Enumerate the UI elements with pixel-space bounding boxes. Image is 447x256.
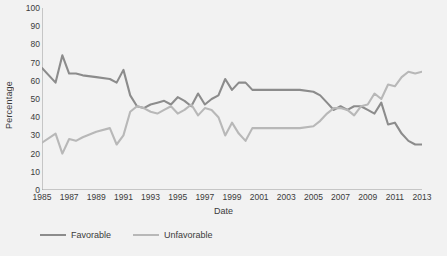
x-tick-label: 2011 — [380, 193, 410, 202]
chart-legend: FavorableUnfavorable — [40, 230, 213, 240]
y-tick-label: 50 — [14, 95, 40, 104]
x-tick-label: 1993 — [136, 193, 166, 202]
line-chart: Percentage 0102030405060708090100 198519… — [0, 0, 447, 256]
x-tick-label: 1999 — [217, 193, 247, 202]
legend-label: Favorable — [71, 230, 111, 240]
y-tick-label: 100 — [14, 4, 40, 13]
x-axis-title: Date — [0, 206, 447, 216]
x-tick-label: 2001 — [244, 193, 274, 202]
legend-swatch-icon — [133, 234, 159, 237]
legend-item-favorable[interactable]: Favorable — [40, 230, 111, 240]
x-tick-label: 2007 — [326, 193, 356, 202]
y-tick-label: 30 — [14, 131, 40, 140]
x-tick-label: 2005 — [298, 193, 328, 202]
axis-lines — [42, 8, 422, 190]
x-tick-label: 1997 — [190, 193, 220, 202]
y-tick-label: 60 — [14, 77, 40, 86]
x-tick-label: 2013 — [407, 193, 437, 202]
x-tick-label: 1991 — [108, 193, 138, 202]
x-tick-label: 1987 — [54, 193, 84, 202]
y-axis-tick-labels: 0102030405060708090100 — [12, 0, 40, 200]
legend-swatch-icon — [40, 234, 66, 237]
y-tick-label: 40 — [14, 113, 40, 122]
plot-area — [42, 8, 422, 190]
y-tick-label: 10 — [14, 168, 40, 177]
y-tick-label: 20 — [14, 150, 40, 159]
x-tick-label: 2003 — [271, 193, 301, 202]
x-tick-label: 1989 — [81, 193, 111, 202]
legend-item-unfavorable[interactable]: Unfavorable — [133, 230, 213, 240]
legend-label: Unfavorable — [164, 230, 213, 240]
plot-svg — [42, 8, 422, 190]
y-tick-label: 90 — [14, 22, 40, 31]
x-tick-label: 2009 — [353, 193, 383, 202]
y-tick-label: 80 — [14, 40, 40, 49]
y-tick-label: 70 — [14, 59, 40, 68]
series-line-unfavorable — [42, 72, 422, 154]
x-tick-label: 1995 — [163, 193, 193, 202]
x-tick-label: 1985 — [27, 193, 57, 202]
